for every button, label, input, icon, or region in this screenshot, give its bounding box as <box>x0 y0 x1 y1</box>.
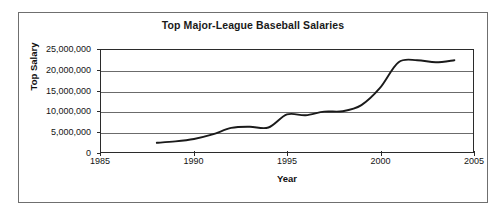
x-tick-mark <box>287 151 288 156</box>
x-tick-mark <box>381 151 382 156</box>
x-tick-label: 1995 <box>277 156 297 166</box>
x-tick-label: 1990 <box>183 156 203 166</box>
y-tick-label: 5,000,000 <box>51 128 91 137</box>
x-tick-mark <box>194 151 195 156</box>
y-axis-tick-labels: 05,000,00010,000,00015,000,00020,000,000… <box>19 43 97 159</box>
y-tick-label: 10,000,000 <box>46 107 91 116</box>
y-tick-label: 15,000,000 <box>46 86 91 95</box>
series-line-chart <box>101 50 473 152</box>
chart-title: Top Major-League Baseball Salaries <box>19 19 487 31</box>
x-axis-title: Year <box>100 173 474 184</box>
y-tick-label: 20,000,000 <box>46 65 91 74</box>
x-axis-tick-labels: 19851990199520002005 <box>100 156 474 170</box>
x-tick-mark <box>100 151 101 156</box>
plot-area <box>100 49 474 153</box>
x-tick-label: 2000 <box>370 156 390 166</box>
x-tick-label: 2005 <box>464 156 484 166</box>
series-path-top-salary <box>157 59 455 142</box>
x-tick-mark <box>474 151 475 156</box>
x-tick-label: 1985 <box>90 156 110 166</box>
y-tick-label: 25,000,000 <box>46 45 91 54</box>
chart-figure: Top Major-League Baseball Salaries Top S… <box>18 12 488 203</box>
